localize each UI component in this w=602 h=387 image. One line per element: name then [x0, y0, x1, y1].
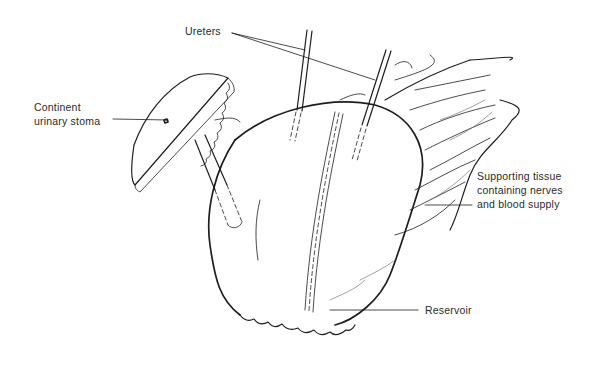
label-support-line1: Supporting tissue [477, 169, 563, 183]
label-support-line3: and blood supply [477, 197, 563, 211]
label-stoma-line1: Continent [34, 100, 100, 114]
leader-lines [113, 33, 472, 310]
suture-line [305, 112, 343, 312]
label-supporting-tissue: Supporting tissue containing nerves and … [477, 169, 563, 211]
stoma-flap [132, 74, 243, 228]
label-ureters: Ureters [185, 24, 221, 38]
label-support-line2: containing nerves [477, 183, 563, 197]
label-reservoir: Reservoir [425, 303, 472, 317]
label-stoma-line2: urinary stoma [34, 114, 100, 128]
label-continent-urinary-stoma: Continent urinary stoma [34, 100, 100, 128]
